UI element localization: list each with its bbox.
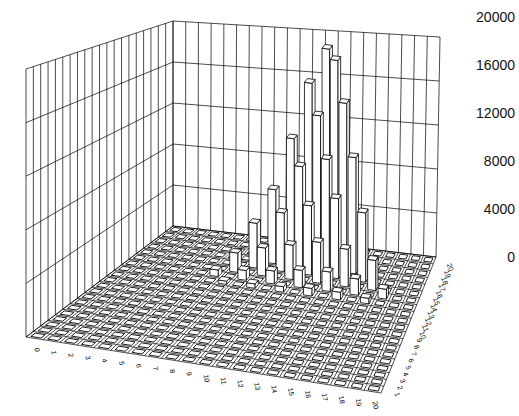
x-tick-label: 3 xyxy=(84,355,92,360)
x-tick-label: 14 xyxy=(270,385,278,394)
x-tick-label: 17 xyxy=(321,393,329,402)
x-tick-label: 1 xyxy=(50,350,58,355)
chart-canvas: 1234567891011121314151617181920012345678… xyxy=(0,0,519,416)
y-tick-label: 3 xyxy=(399,378,407,384)
x-tick-label: 15 xyxy=(287,387,295,396)
x-tick-label: 13 xyxy=(253,382,261,391)
y-tick-label: 6 xyxy=(407,358,415,364)
z-tick-label: 12000 xyxy=(445,105,515,121)
y-tick-label: 5 xyxy=(404,364,412,370)
x-tick-label: 11 xyxy=(219,377,227,385)
x-tick-label: 7 xyxy=(152,366,160,371)
x-tick-label: 16 xyxy=(304,390,312,399)
z-tick-label: 20000 xyxy=(445,9,515,25)
x-tick-label: 8 xyxy=(169,369,177,374)
x-tick-label: 6 xyxy=(135,363,143,368)
x-tick-label: 19 xyxy=(355,398,363,407)
x-tick-label: 0 xyxy=(33,347,41,352)
z-tick-label: 4000 xyxy=(445,201,515,217)
x-tick-label: 10 xyxy=(203,374,211,383)
y-tick-label: 7 xyxy=(410,351,418,357)
x-tick-label: 2 xyxy=(67,353,75,358)
x-tick-label: 4 xyxy=(101,358,109,363)
z-tick-label: 0 xyxy=(445,249,515,265)
x-tick-label: 20 xyxy=(372,401,380,410)
z-tick-label: 8000 xyxy=(445,153,515,169)
y-tick-label: 2 xyxy=(396,385,404,391)
x-tick-label: 5 xyxy=(118,361,126,366)
chart-3d-bar: 1234567891011121314151617181920012345678… xyxy=(0,0,519,416)
y-tick-label: 8 xyxy=(413,344,421,350)
y-tick-label: 4 xyxy=(402,371,410,377)
x-tick-label: 12 xyxy=(236,379,244,388)
y-tick-label: 1 xyxy=(393,392,401,398)
z-tick-label: 16000 xyxy=(445,57,515,73)
x-tick-label: 18 xyxy=(338,395,346,404)
x-tick-label: 9 xyxy=(186,371,194,376)
